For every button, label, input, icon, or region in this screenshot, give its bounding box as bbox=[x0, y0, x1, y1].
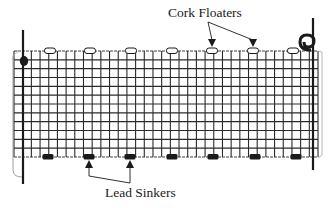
lead-sinker bbox=[208, 154, 219, 160]
lead-sinker bbox=[125, 154, 136, 160]
cork-float bbox=[45, 48, 56, 54]
lead-sinker bbox=[250, 154, 261, 160]
lead-sinker bbox=[43, 154, 54, 160]
cork-float bbox=[85, 48, 96, 54]
arrow-head-icon bbox=[126, 160, 134, 168]
lead-sinker bbox=[84, 154, 95, 160]
floater-arrow-line bbox=[208, 22, 212, 40]
right-curled-edge bbox=[318, 51, 322, 158]
cork-float bbox=[248, 48, 259, 54]
cork-float bbox=[126, 48, 137, 54]
lead-sinker bbox=[291, 154, 302, 160]
sinker-arrow-line bbox=[89, 166, 130, 183]
lead-sinkers-label: Lead Sinkers bbox=[105, 186, 176, 200]
net-mesh bbox=[14, 51, 318, 157]
net-illustration bbox=[0, 0, 331, 208]
arrow-head-icon bbox=[208, 39, 216, 47]
arrow-head-icon bbox=[249, 39, 257, 47]
cork-floaters-label: Cork Floaters bbox=[168, 6, 242, 20]
left-knot-icon bbox=[20, 56, 28, 66]
cork-float bbox=[288, 48, 299, 54]
cork-float bbox=[207, 48, 218, 54]
floater-arrow-line bbox=[208, 22, 253, 40]
lead-sinker bbox=[167, 154, 178, 160]
gill-net-diagram: Cork Floaters Lead Sinkers bbox=[0, 0, 331, 208]
net-poles bbox=[20, 18, 314, 184]
cork-float bbox=[167, 48, 178, 54]
arrow-head-icon bbox=[85, 160, 93, 168]
